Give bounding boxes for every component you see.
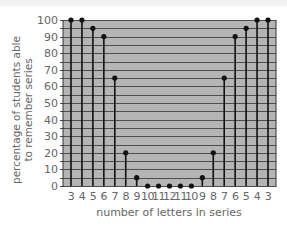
data-point bbox=[101, 34, 106, 39]
data-point bbox=[167, 183, 172, 188]
x-tick-label: 9 bbox=[199, 190, 206, 203]
data-point bbox=[189, 183, 194, 188]
x-tick-label: 8 bbox=[210, 190, 217, 203]
data-point bbox=[123, 150, 128, 155]
data-point bbox=[211, 150, 216, 155]
data-point bbox=[90, 26, 95, 31]
data-point bbox=[79, 17, 84, 22]
x-tick-label: 5 bbox=[90, 190, 97, 203]
data-point bbox=[112, 76, 117, 81]
y-tick-label: 70 bbox=[44, 64, 58, 77]
y-axis-label-line-1: percentage of students able bbox=[10, 36, 22, 184]
y-tick-label: 30 bbox=[44, 130, 58, 143]
data-point bbox=[178, 183, 183, 188]
data-point bbox=[68, 17, 73, 22]
y-axis-label: percentage of students able to remember … bbox=[2, 40, 42, 180]
x-tick-label: 6 bbox=[232, 190, 239, 203]
data-point bbox=[254, 17, 259, 22]
y-tick-label: 60 bbox=[44, 80, 58, 93]
y-tick-label: 90 bbox=[44, 31, 58, 44]
x-tick-label: 3 bbox=[265, 190, 272, 203]
y-axis-label-line-2: to remember series bbox=[22, 36, 34, 184]
y-tick-label: 40 bbox=[44, 114, 58, 127]
x-axis-label: number of letters in series bbox=[63, 206, 275, 219]
x-tick-label: 5 bbox=[243, 190, 250, 203]
y-tick-label: 0 bbox=[51, 180, 58, 193]
x-tick-label: 7 bbox=[112, 190, 119, 203]
lollipop-chart: 0102030405060708090100345678910111211109… bbox=[0, 0, 287, 226]
data-point bbox=[222, 76, 227, 81]
x-tick-label: 6 bbox=[101, 190, 108, 203]
data-point bbox=[200, 175, 205, 180]
data-point bbox=[265, 17, 270, 22]
x-tick-label: 3 bbox=[68, 190, 75, 203]
data-point bbox=[244, 26, 249, 31]
data-point bbox=[145, 183, 150, 188]
y-tick-label: 100 bbox=[37, 14, 58, 27]
data-point bbox=[233, 34, 238, 39]
data-point bbox=[156, 183, 161, 188]
x-tick-label: 10 bbox=[185, 190, 198, 203]
x-tick-label: 4 bbox=[254, 190, 261, 203]
x-tick-label: 7 bbox=[221, 190, 228, 203]
data-point bbox=[134, 175, 139, 180]
x-tick-label: 9 bbox=[133, 190, 140, 203]
x-tick-label: 4 bbox=[79, 190, 86, 203]
y-tick-label: 20 bbox=[44, 147, 58, 160]
y-tick-label: 10 bbox=[44, 163, 58, 176]
y-tick-label: 80 bbox=[44, 47, 58, 60]
y-tick-label: 50 bbox=[44, 97, 58, 110]
x-tick-label: 8 bbox=[122, 190, 129, 203]
